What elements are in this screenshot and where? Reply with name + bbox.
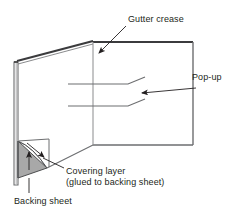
label-covering-layer-note: (glued to backing sheet) xyxy=(66,177,164,188)
label-backing-sheet: Backing sheet xyxy=(14,196,72,207)
label-gutter-crease: Gutter crease xyxy=(128,14,184,25)
diagram-figure: Gutter crease Pop-up Covering layer (glu… xyxy=(0,0,240,218)
backing-sheet-strip xyxy=(14,62,18,185)
label-popup: Pop-up xyxy=(192,72,222,83)
label-covering-layer: Covering layer xyxy=(66,166,125,177)
